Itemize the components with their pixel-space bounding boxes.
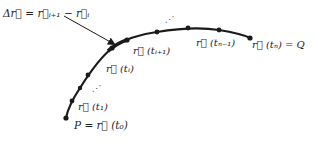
point-ti1 xyxy=(124,37,129,42)
point xyxy=(78,86,82,90)
delta-r-label: Δr⃗ = r⃗ᵢ₊₁ − r⃗ᵢ xyxy=(3,8,89,19)
r-ti1-label: r⃗ (tᵢ₊₁) xyxy=(133,46,170,56)
ellipsis-lower: ⋰ xyxy=(92,85,100,93)
curve-diagram: Δr⃗ = r⃗ᵢ₊₁ − r⃗ᵢ r⃗ (tᵢ) r⃗ (tᵢ₊₁) ⋰ r⃗… xyxy=(0,0,316,141)
P-r-t0-label: P = r⃗ (t₀) xyxy=(74,120,128,131)
r-tn-Q-label: r⃗ (tₙ) = Q xyxy=(252,40,305,50)
point-P xyxy=(63,115,68,120)
curve-svg xyxy=(0,0,316,141)
ellipsis-upper: ⋰ xyxy=(165,16,173,24)
r-t1-label: r⃗ (t₁) xyxy=(78,102,108,112)
delta-r-arrow xyxy=(64,16,114,44)
point xyxy=(86,73,91,78)
point xyxy=(155,30,160,35)
r-ti-label: r⃗ (tᵢ) xyxy=(106,64,134,74)
r-tn1-label: r⃗ (tₙ₋₁) xyxy=(196,38,235,48)
point xyxy=(186,26,191,31)
point-ti xyxy=(109,45,114,50)
point-tn1 xyxy=(217,28,222,33)
point-t1 xyxy=(70,99,75,104)
